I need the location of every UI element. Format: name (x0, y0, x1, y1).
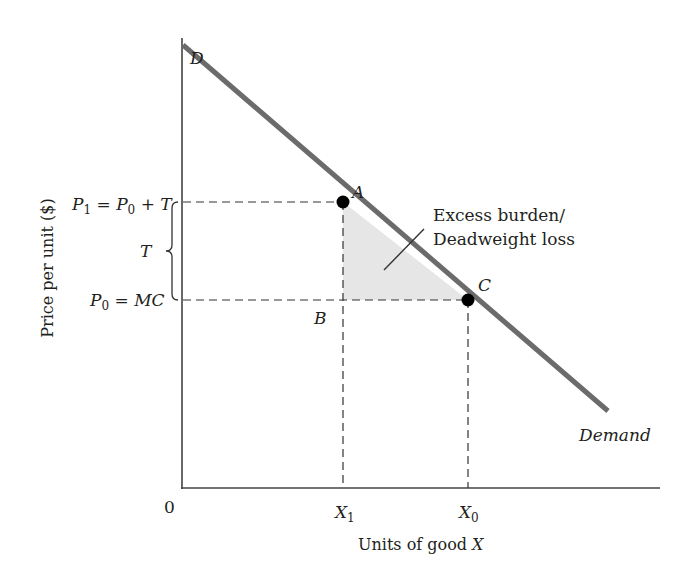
deadweight-loss-diagram: D A B C Excess burden/ Deadweight loss D… (0, 0, 695, 588)
tax-label: T (140, 241, 153, 261)
point-a-marker (337, 196, 350, 209)
curve-start-label: D (189, 48, 204, 68)
origin-label: 0 (164, 497, 175, 517)
x0-quantity-label: X0 (457, 502, 479, 525)
tax-brace (166, 202, 178, 300)
annotation-line-1: Excess burden/ (433, 205, 565, 225)
dashed-guides (183, 202, 468, 488)
point-c-marker (462, 294, 475, 307)
annotation-line-2: Deadweight loss (433, 229, 575, 249)
p1-price-label: P1 = P0 + T (71, 194, 173, 217)
x1-quantity-label: X1 (333, 502, 355, 525)
demand-label: Demand (578, 425, 651, 445)
x-axis-title: Units of good X (358, 535, 484, 554)
p0-price-label: P0 = MC (89, 290, 165, 313)
point-c-label: C (478, 275, 491, 295)
y-axis-title: Price per unit ($) (38, 198, 57, 337)
demand-curve (183, 45, 608, 411)
point-b-label: B (313, 308, 327, 328)
point-a-label: A (350, 182, 364, 202)
